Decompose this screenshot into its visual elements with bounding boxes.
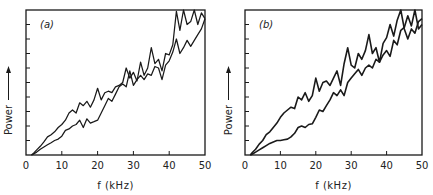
- data-series-lower: [31, 19, 205, 155]
- y-axis-label: Power: [3, 104, 14, 135]
- x-tick-label: 10: [274, 160, 287, 171]
- x-axis-label: f (kHz): [315, 180, 352, 191]
- data-series-lower: [250, 10, 422, 155]
- panel-b: 01020304050f (kHz)Power(b): [223, 10, 428, 191]
- x-tick-label: 10: [55, 160, 68, 171]
- arrowhead-icon: [226, 66, 231, 73]
- y-axis-label: Power: [223, 104, 234, 135]
- x-tick-label: 20: [309, 160, 322, 171]
- figure: 01020304050f (kHz)Power(a) 01020304050f …: [0, 0, 433, 195]
- panel-label: (b): [259, 19, 273, 30]
- arrowhead-icon: [6, 66, 11, 73]
- x-tick-label: 50: [416, 160, 429, 171]
- x-tick-label: 0: [242, 160, 248, 171]
- x-tick-label: 30: [127, 160, 140, 171]
- x-tick-label: 30: [345, 160, 358, 171]
- x-tick-label: 20: [91, 160, 104, 171]
- x-tick-label: 50: [199, 160, 212, 171]
- panel-a: 01020304050f (kHz)Power(a): [3, 10, 211, 191]
- x-tick-label: 40: [163, 160, 176, 171]
- x-tick-label: 0: [23, 160, 29, 171]
- x-axis-label: f (kHz): [97, 180, 134, 191]
- panel-label: (a): [40, 19, 54, 30]
- x-tick-label: 40: [380, 160, 393, 171]
- data-series-upper: [250, 10, 422, 155]
- data-series-upper: [31, 10, 205, 155]
